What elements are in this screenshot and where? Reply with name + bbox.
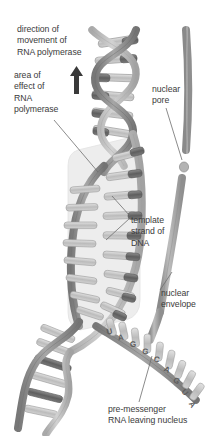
nuclear-pore-opening bbox=[179, 162, 188, 172]
rna-base-letter: C bbox=[153, 355, 161, 365]
diagram-canvas: UAGGCAGUA direction of movement of RNA p… bbox=[0, 0, 219, 436]
label-nuclear-pore: nuclear pore bbox=[152, 84, 210, 107]
label-area-of-effect: area of effect of RNA polymerase bbox=[14, 70, 86, 116]
label-nuclear-envelope: nuclear envelope bbox=[161, 288, 219, 311]
label-pre-messenger-rna: pre-messenger RNA leaving nucleus bbox=[108, 404, 219, 427]
rna-base-letter: G bbox=[130, 340, 137, 349]
label-template-strand: template strand of DNA bbox=[131, 215, 191, 249]
dna-helix-lower bbox=[18, 322, 79, 434]
leader-nuclear-pore bbox=[166, 108, 182, 160]
rna-base-letter: G bbox=[142, 347, 149, 357]
label-direction-of-movement: direction of movement of RNA polymerase bbox=[17, 24, 119, 58]
